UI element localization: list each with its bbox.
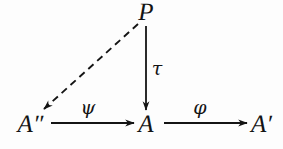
node-A-double-prime: A″ <box>18 112 43 137</box>
commutative-diagram: P A″ A A′ τ ψ φ <box>0 0 283 149</box>
node-A-prime: A′ <box>251 112 271 137</box>
node-P-label: P <box>138 0 153 26</box>
arrow-label-tau: τ <box>152 59 163 78</box>
node-P: P <box>138 0 153 25</box>
prime-mark: ′ <box>267 111 271 138</box>
node-A-double-prime-label: A <box>18 111 33 138</box>
node-A-prime-label: A <box>251 111 266 138</box>
arrow-label-psi: ψ <box>81 98 96 117</box>
arrow-label-phi: φ <box>193 98 206 117</box>
node-A-label: A <box>138 111 153 138</box>
node-A: A <box>138 112 153 137</box>
double-prime-mark: ″ <box>33 111 42 138</box>
